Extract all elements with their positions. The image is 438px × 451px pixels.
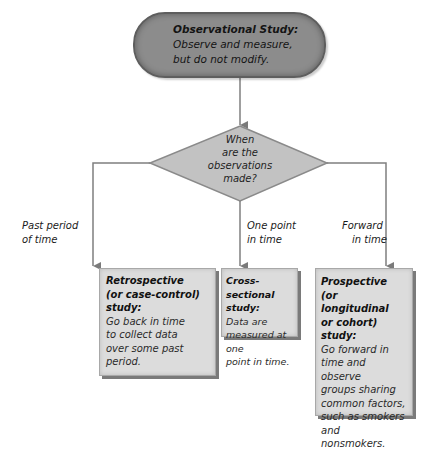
desc-line: groups sharing: [321, 383, 407, 397]
node-description: Data are measured at one point in time.: [226, 315, 293, 369]
title-line: or cohort) study:: [321, 316, 407, 343]
root-title: Observational Study:: [173, 22, 298, 37]
desc-line: time and observe: [321, 356, 407, 383]
node-title: Prospective (or longitudinal or cohort) …: [321, 275, 407, 343]
decision-question: When are the observations made?: [188, 133, 292, 185]
node-title: Cross-sectional study:: [226, 274, 293, 315]
label-line: in time: [247, 233, 296, 247]
title-line: study:: [226, 301, 293, 315]
desc-line: common factors,: [321, 397, 407, 411]
prospective-study-node: Prospective (or longitudinal or cohort) …: [315, 268, 413, 416]
label-line: of time: [22, 233, 78, 247]
retrospective-study-node: Retrospective (or case-control) study: G…: [99, 268, 216, 376]
node-description: Go forward in time and observe groups sh…: [321, 343, 407, 451]
decision-line-1: When: [188, 133, 292, 146]
label-line: Past period: [22, 219, 78, 233]
desc-line: point in time.: [226, 355, 293, 369]
branch-label-one-point: One point in time: [247, 219, 296, 247]
node-description: Go back in time to collect data over som…: [106, 315, 209, 369]
desc-line: over some past: [106, 342, 209, 356]
desc-line: and nonsmokers.: [321, 424, 407, 451]
label-line: in time: [342, 233, 387, 247]
title-line: Prospective: [321, 275, 407, 289]
decision-line-2: are the: [188, 146, 292, 159]
desc-line: Go back in time: [106, 315, 209, 329]
desc-line: to collect data: [106, 328, 209, 342]
desc-line: period.: [106, 355, 209, 369]
label-line: Forward: [342, 219, 387, 233]
decision-line-4: made?: [188, 172, 292, 185]
branch-label-past: Past period of time: [22, 219, 78, 247]
desc-line: such as smokers: [321, 410, 407, 424]
node-title: Retrospective (or case-control) study:: [106, 274, 209, 315]
desc-line: measured at one: [226, 328, 293, 355]
desc-line: Go forward in: [321, 343, 407, 357]
root-line-1: Observe and measure,: [173, 37, 298, 52]
desc-line: Data are: [226, 315, 293, 329]
branch-label-forward: Forward in time: [342, 219, 387, 247]
title-line: Cross-sectional: [226, 274, 293, 301]
decision-line-3: observations: [188, 159, 292, 172]
title-line: study:: [106, 301, 209, 315]
title-line: (or case-control): [106, 288, 209, 302]
title-line: (or longitudinal: [321, 289, 407, 316]
title-line: Retrospective: [106, 274, 209, 288]
observational-study-node: Observational Study: Observe and measure…: [133, 12, 326, 78]
root-line-2: but do not modify.: [173, 52, 298, 67]
label-line: One point: [247, 219, 296, 233]
cross-sectional-study-node: Cross-sectional study: Data are measured…: [221, 268, 298, 337]
